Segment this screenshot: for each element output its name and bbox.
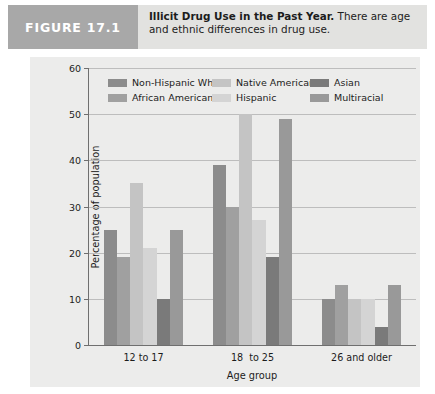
y-tick-label: 50 <box>69 109 81 120</box>
bar <box>213 165 226 345</box>
bar-group: 18 to 25 <box>213 68 291 345</box>
x-axis-title: Age group <box>88 370 416 381</box>
y-tick-mark <box>84 345 89 346</box>
figure-number-box: FIGURE 17.1 <box>8 5 138 49</box>
bar-group: 26 and older <box>322 68 400 345</box>
bar <box>239 114 252 345</box>
bar <box>279 119 292 345</box>
x-tick-label: 18 to 25 <box>213 352 291 363</box>
y-tick-mark <box>84 207 89 208</box>
bar <box>104 230 117 345</box>
bar <box>361 299 374 345</box>
bar <box>170 230 183 345</box>
bar <box>375 327 388 345</box>
y-tick-mark <box>84 114 89 115</box>
x-tick-label: 26 and older <box>322 352 400 363</box>
bar <box>130 183 143 345</box>
y-tick-label: 30 <box>69 201 81 212</box>
y-tick-label: 60 <box>69 63 81 74</box>
x-axis-line <box>88 345 416 346</box>
x-tick-label: 12 to 17 <box>104 352 182 363</box>
y-tick-mark <box>84 160 89 161</box>
chart-panel: Non-Hispanic WhiteNative AmericanAsianAf… <box>30 57 420 387</box>
y-tick-mark <box>84 299 89 300</box>
bar <box>143 248 156 345</box>
plot-region: 010203040506012 to 1718 to 2526 and olde… <box>89 68 416 345</box>
bar <box>322 299 335 345</box>
bar <box>252 220 265 345</box>
bar <box>335 285 348 345</box>
figure-header: FIGURE 17.1 Illicit Drug Use in the Past… <box>8 5 427 49</box>
y-tick-mark <box>84 253 89 254</box>
y-tick-label: 0 <box>75 340 81 351</box>
y-tick-label: 40 <box>69 155 81 166</box>
y-tick-label: 20 <box>69 247 81 258</box>
y-tick-mark <box>84 68 89 69</box>
figure-caption-lead: Illicit Drug Use in the Past Year. <box>149 10 334 22</box>
bar <box>348 299 361 345</box>
bar <box>157 299 170 345</box>
bar <box>388 285 401 345</box>
bar-group: 12 to 17 <box>104 68 182 345</box>
bar <box>117 257 130 345</box>
figure-caption-box: Illicit Drug Use in the Past Year. There… <box>138 5 427 49</box>
figure-caption: Illicit Drug Use in the Past Year. There… <box>149 10 418 36</box>
y-tick-label: 10 <box>69 293 81 304</box>
bar <box>266 257 279 345</box>
bar <box>226 207 239 346</box>
figure-number-label: FIGURE 17.1 <box>25 20 121 35</box>
